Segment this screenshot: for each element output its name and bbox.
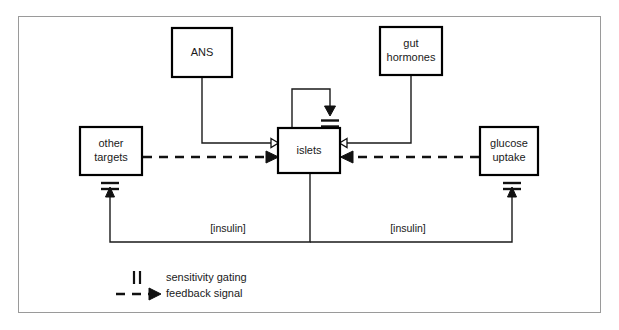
node-glucose-uptake[interactable]: glucose uptake: [480, 127, 538, 175]
node-other-targets-label-line1: other: [98, 137, 123, 149]
legend-label-feedback-signal: feedback signal: [166, 287, 242, 299]
edge-glucose-uptake-to-islets: [341, 151, 480, 163]
node-ans[interactable]: ANS: [172, 28, 232, 77]
sensitivity-gating-symbol-icon: [134, 271, 140, 284]
edge-other-targets-to-islets: [143, 151, 279, 163]
node-gut-hormones-label-line2: hormones: [387, 51, 436, 63]
node-other-targets[interactable]: other targets: [80, 127, 142, 175]
edge-label-insulin-left: [insulin]: [210, 222, 246, 234]
legend-item-feedback-signal: feedback signal: [116, 287, 242, 300]
node-glucose-uptake-label-line1: glucose: [490, 137, 528, 149]
node-gut-hormones[interactable]: gut hormones: [380, 27, 442, 75]
diagram-canvas: [insulin] [insulin] ANS gut hormones oth…: [0, 0, 619, 330]
node-ans-label: ANS: [191, 46, 214, 58]
gating-symbol-islets: [321, 121, 339, 127]
edge-gut-hormones-to-islets: [340, 75, 412, 148]
edge-islets-self-loop: [292, 89, 339, 128]
edge-islets-self-loop-line: [292, 89, 330, 128]
node-islets[interactable]: islets: [278, 128, 340, 173]
edge-ans-to-islets: [202, 77, 279, 148]
legend-item-sensitivity-gating: sensitivity gating: [134, 271, 247, 284]
legend: sensitivity gating feedback signal: [116, 271, 247, 300]
dashed-arrow-symbol-icon: [116, 288, 161, 300]
edge-other-targets-to-islets-arrowhead: [266, 151, 279, 163]
node-islets-label: islets: [296, 144, 322, 156]
edge-gut-hormones-to-islets-line: [347, 75, 411, 143]
edge-glucose-uptake-to-islets-arrowhead: [341, 151, 354, 163]
edge-islets-self-loop-arrowhead: [325, 106, 336, 116]
edge-ans-to-islets-line: [202, 77, 271, 143]
node-other-targets-label-line2: targets: [94, 151, 128, 163]
edge-islets-to-glucose-uptake-line: [310, 196, 512, 242]
edge-label-insulin-right: [insulin]: [390, 222, 426, 234]
legend-label-sensitivity-gating: sensitivity gating: [166, 271, 247, 283]
figure-page: [insulin] [insulin] ANS gut hormones oth…: [0, 0, 619, 330]
node-gut-hormones-label-line1: gut: [403, 37, 418, 49]
edge-islets-to-other-targets: [101, 173, 310, 242]
node-glucose-uptake-label-line2: uptake: [492, 151, 525, 163]
